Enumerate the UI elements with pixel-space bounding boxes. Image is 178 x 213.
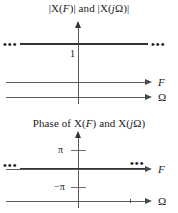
magnitude-vertical-axis-arrowhead: [75, 21, 81, 28]
magnitude-right-ellipsis: •••: [151, 41, 166, 47]
phase-left-ellipsis: •••: [3, 162, 18, 168]
phase-omega-axis-arrowhead: [145, 198, 152, 204]
magnitude-value-label-one: 1: [70, 49, 75, 59]
phase-origin-tick: [78, 197, 79, 205]
phase-vertical-axis-arrowhead: [75, 131, 81, 138]
magnitude-title-open: |X(: [49, 2, 63, 14]
magnitude-omega-axis-label: Ω: [158, 92, 166, 103]
phase-omega-axis-label: Ω: [158, 196, 166, 207]
phase-title-var-omega: Ω: [133, 117, 141, 129]
magnitude-constant-line: [20, 43, 148, 45]
phase-plot-title: Phase of X(F) and X(jΩ): [0, 117, 178, 129]
phase-title-var-f: F: [86, 117, 93, 129]
phase-f-axis-label: F: [158, 164, 165, 175]
magnitude-omega-axis-arrowhead: [145, 94, 152, 100]
phase-negative-pi-label: −π: [54, 182, 65, 192]
magnitude-origin-tick: [78, 93, 79, 101]
phase-omega-axis-line: [6, 201, 146, 202]
phase-omega-right-tick: [130, 199, 131, 203]
magnitude-f-axis-arrowhead: [145, 79, 152, 85]
phase-positive-pi-label: π: [58, 145, 63, 155]
phase-title-prefix: Phase of X(: [33, 117, 86, 129]
magnitude-title-close: )|: [123, 2, 129, 14]
phase-f-axis-arrowhead: [145, 166, 152, 172]
phase-positive-pi-tick: [71, 150, 86, 151]
magnitude-plot-title: |X(F)| and |X(jΩ)|: [0, 2, 178, 14]
magnitude-title-mid: )| and |X(: [70, 2, 112, 14]
magnitude-title-var-omega: Ω: [115, 2, 123, 14]
magnitude-f-axis-line: [6, 82, 146, 83]
phase-negative-pi-tick: [71, 187, 86, 188]
signal-spectrum-figure: |X(F)| and |X(jΩ)| ••• ••• 1 F Ω Phase o…: [0, 0, 178, 213]
magnitude-title-var-f: F: [63, 2, 70, 14]
phase-right-ellipsis: •••: [130, 160, 145, 166]
phase-f-axis-line: [6, 169, 146, 170]
phase-title-close: ): [142, 117, 146, 129]
magnitude-left-ellipsis: •••: [3, 41, 18, 47]
phase-title-mid: ) and X(: [93, 117, 130, 129]
magnitude-f-axis-label: F: [158, 77, 165, 88]
magnitude-omega-axis-line: [6, 97, 146, 98]
